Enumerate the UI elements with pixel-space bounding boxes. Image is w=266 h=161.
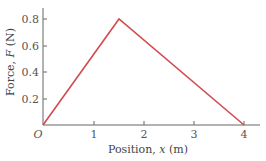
x-axis-label: Position, x (m) [108, 143, 188, 156]
x-tick-label-1: 1 [91, 128, 98, 141]
y-tick-label-0.8: 0.8 [22, 13, 40, 26]
x-tick-label-3: 3 [191, 128, 198, 141]
y-tick-label-0.6: 0.6 [22, 40, 40, 53]
y-axis-label: Force, F (N) [4, 28, 17, 96]
x-tick-label-4: 4 [241, 128, 248, 141]
force-curve [43, 19, 244, 125]
force-position-chart: 0.2 0.4 0.6 0.8 O 1 2 3 4 Position, x (m… [0, 0, 266, 161]
x-tick-label-2: 2 [141, 128, 148, 141]
y-tick-label-0.4: 0.4 [22, 66, 40, 79]
x-ticks [94, 121, 244, 125]
y-tick-label-0.2: 0.2 [22, 93, 40, 106]
origin-label: O [33, 128, 42, 141]
y-ticks [43, 19, 47, 99]
